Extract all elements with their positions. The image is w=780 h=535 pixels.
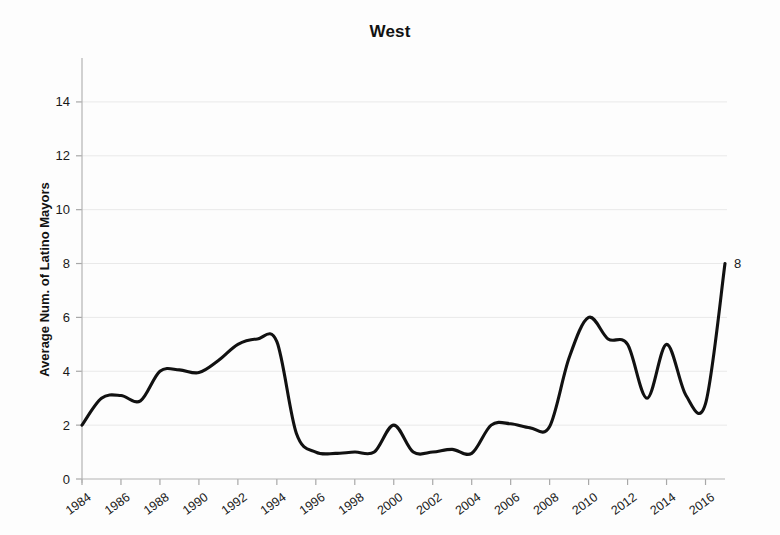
x-tick-label: 1988 xyxy=(141,490,172,518)
y-tick-label: 12 xyxy=(56,148,70,163)
x-tick-label: 2008 xyxy=(531,490,562,518)
x-tick-label: 1992 xyxy=(219,490,250,518)
x-tick-label: 1986 xyxy=(102,490,133,518)
x-tick-label: 2012 xyxy=(609,490,640,518)
y-tick-label: 10 xyxy=(56,202,70,217)
x-tick-label: 2016 xyxy=(687,490,718,518)
x-tick-label: 2002 xyxy=(414,490,445,518)
y-tick-label: 0 xyxy=(63,472,70,487)
x-tick-label: 2004 xyxy=(453,490,484,518)
y-tick-label: 4 xyxy=(63,364,70,379)
x-tick-label: 1996 xyxy=(297,490,328,518)
x-tick-label: 2010 xyxy=(570,490,601,518)
y-tick-label: 8 xyxy=(63,256,70,271)
x-tick-label: 2006 xyxy=(492,490,523,518)
plot-area: 02468101214 1984198619881990199219941996… xyxy=(0,0,780,535)
x-tick-label: 2000 xyxy=(375,490,406,518)
chart-container: West Average Num. of Latino Mayors 02468… xyxy=(0,0,780,535)
x-tick-label: 2014 xyxy=(648,490,679,518)
x-tick-label: 1984 xyxy=(63,490,94,518)
x-tick-label: 1990 xyxy=(180,490,211,518)
y-axis-ticks-group: 02468101214 xyxy=(56,94,82,486)
gridlines-group xyxy=(82,102,727,425)
y-tick-label: 6 xyxy=(63,310,70,325)
x-tick-label: 1998 xyxy=(336,490,367,518)
data-annotations-group: 8 xyxy=(734,256,741,271)
data-series-line xyxy=(82,264,725,455)
x-axis-ticks-group: 1984198619881990199219941996199820002002… xyxy=(63,479,717,518)
y-tick-label: 14 xyxy=(56,94,70,109)
series-endpoint-label: 8 xyxy=(734,256,741,271)
x-tick-label: 1994 xyxy=(258,490,289,518)
y-tick-label: 2 xyxy=(63,418,70,433)
